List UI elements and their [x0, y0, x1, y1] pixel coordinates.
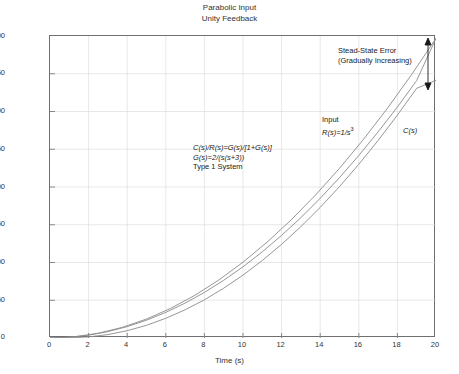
input-curve-label: Input — [322, 115, 354, 125]
chart-screenshot: Parabolic Input Unity Feedback Amplitude… — [0, 0, 459, 374]
equation-line-3: Type 1 System — [193, 162, 272, 172]
x-tick-label: 8 — [188, 340, 218, 349]
x-tick-label: 18 — [381, 340, 411, 349]
y-tick-label: 350 — [0, 68, 5, 77]
x-axis-label: Time (s) — [0, 356, 459, 365]
y-tick-label: 0 — [0, 332, 5, 341]
steady-state-error-arrow — [425, 38, 431, 90]
steady-state-error-annotation: Stead-State Error (Gradually Increasing) — [338, 46, 412, 65]
steady-state-error-line-1: Stead-State Error — [338, 46, 412, 56]
plot-svg — [50, 36, 436, 338]
steady-state-error-line-2: (Gradually Increasing) — [338, 56, 412, 66]
x-tick-label: 10 — [227, 340, 257, 349]
y-tick-label: 50 — [0, 295, 5, 304]
y-tick-label: 300 — [0, 106, 5, 115]
plot-area — [49, 35, 435, 337]
y-tick-label: 200 — [0, 182, 5, 191]
chart-title-line-2: Unity Feedback — [0, 14, 459, 25]
grid-lines — [50, 36, 436, 338]
chart-title: Parabolic Input Unity Feedback — [0, 3, 459, 24]
input-curve-expression: R(s)=1/s3 — [322, 125, 354, 137]
x-tick-label: 0 — [34, 340, 64, 349]
output-curve-label: C(s) — [403, 126, 417, 136]
x-tick-label: 20 — [420, 340, 450, 349]
equation-line-1: C(s)/R(s)=G(s)/[1+G(s)] — [193, 143, 272, 153]
y-tick-label: 400 — [0, 31, 5, 40]
y-tick-label: 100 — [0, 257, 5, 266]
chart-title-line-1: Parabolic Input — [0, 3, 459, 14]
y-tick-label: 150 — [0, 219, 5, 228]
x-tick-label: 4 — [111, 340, 141, 349]
transfer-function-annotation: C(s)/R(s)=G(s)/[1+G(s)] G(s)=2/(s(s+3)) … — [193, 143, 272, 172]
y-tick-label: 250 — [0, 144, 5, 153]
x-tick-label: 14 — [304, 340, 334, 349]
x-tick-label: 16 — [343, 340, 373, 349]
equation-line-2: G(s)=2/(s(s+3)) — [193, 153, 272, 163]
x-tick-label: 12 — [266, 340, 296, 349]
input-curve-annotation: Input R(s)=1/s3 — [322, 115, 354, 137]
axis-ticks — [50, 74, 397, 338]
x-tick-label: 6 — [150, 340, 180, 349]
x-tick-label: 2 — [73, 340, 103, 349]
